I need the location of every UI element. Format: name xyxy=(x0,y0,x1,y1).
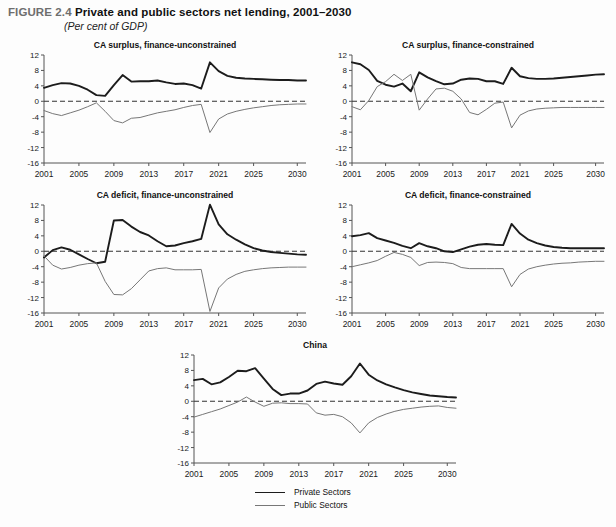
svg-text:2025: 2025 xyxy=(244,319,263,329)
svg-text:0: 0 xyxy=(185,397,190,406)
svg-text:2013: 2013 xyxy=(139,319,158,329)
svg-text:12: 12 xyxy=(338,201,347,210)
svg-text:-16: -16 xyxy=(335,309,347,318)
svg-text:-8: -8 xyxy=(340,128,348,137)
chart-panel-china: China 12840-4-8-12-162001200520092013201… xyxy=(168,340,462,485)
legend-label-private: Private Sectors xyxy=(294,488,351,496)
page-title: Private and public sectors net lending, … xyxy=(75,6,352,18)
svg-text:2021: 2021 xyxy=(511,169,530,179)
legend-swatch-public-icon xyxy=(255,505,285,506)
svg-text:2017: 2017 xyxy=(174,319,193,329)
plot-area: 12840-4-8-12-162001200520092013201720212… xyxy=(326,51,610,185)
svg-text:12: 12 xyxy=(30,51,39,60)
chart-panel-ca-deficit-unconstrained: CA deficit, finance-unconstrained 12840-… xyxy=(18,190,312,335)
svg-text:2030: 2030 xyxy=(438,469,457,479)
chart-panel-ca-deficit-constrained: CA deficit, finance-constrained 12840-4-… xyxy=(326,190,610,335)
svg-text:2009: 2009 xyxy=(410,319,429,329)
svg-text:2025: 2025 xyxy=(244,169,263,179)
figure-subtitle: (Per cent of GDP) xyxy=(64,20,608,32)
svg-text:2021: 2021 xyxy=(359,469,378,479)
svg-text:2001: 2001 xyxy=(35,319,54,329)
svg-text:2030: 2030 xyxy=(288,319,307,329)
svg-text:2005: 2005 xyxy=(376,319,395,329)
series-line-private-sectors xyxy=(194,363,456,397)
svg-text:12: 12 xyxy=(30,201,39,210)
svg-text:2017: 2017 xyxy=(477,169,496,179)
svg-text:-12: -12 xyxy=(335,144,347,153)
svg-text:2009: 2009 xyxy=(105,169,124,179)
svg-text:-8: -8 xyxy=(32,128,40,137)
plot-area: 12840-4-8-12-162001200520092013201720212… xyxy=(326,201,610,335)
svg-text:2017: 2017 xyxy=(324,469,343,479)
panel-title: CA deficit, finance-unconstrained xyxy=(18,190,312,200)
svg-text:2009: 2009 xyxy=(255,469,274,479)
panel-title: CA surplus, finance-constrained xyxy=(326,40,610,50)
chart-panel-ca-surplus-unconstrained: CA surplus, finance-unconstrained 12840-… xyxy=(18,40,312,185)
series-line-public-sectors xyxy=(352,252,604,286)
svg-text:2013: 2013 xyxy=(139,169,158,179)
svg-text:2017: 2017 xyxy=(174,169,193,179)
svg-text:2021: 2021 xyxy=(209,169,228,179)
svg-text:8: 8 xyxy=(185,366,190,375)
series-line-private-sectors xyxy=(44,62,306,96)
svg-text:-12: -12 xyxy=(27,144,39,153)
svg-text:2013: 2013 xyxy=(289,469,308,479)
plot-area: 12840-4-8-12-162001200520092013201720212… xyxy=(18,51,312,185)
svg-text:2021: 2021 xyxy=(511,319,530,329)
legend-item-private: Private Sectors xyxy=(255,486,351,499)
plot-svg: 12840-4-8-12-162001200520092013201720212… xyxy=(18,51,312,185)
plot-svg: 12840-4-8-12-162001200520092013201720212… xyxy=(326,51,610,185)
svg-text:2005: 2005 xyxy=(376,169,395,179)
plot-area: 12840-4-8-12-162001200520092013201720212… xyxy=(168,351,462,485)
svg-text:2021: 2021 xyxy=(209,319,228,329)
svg-text:8: 8 xyxy=(343,216,348,225)
svg-text:-8: -8 xyxy=(340,278,348,287)
legend-item-public: Public Sectors xyxy=(255,499,351,512)
series-line-public-sectors xyxy=(44,103,306,133)
plot-svg: 12840-4-8-12-162001200520092013201720212… xyxy=(326,201,610,335)
svg-text:2013: 2013 xyxy=(443,319,462,329)
figure-number: FIGURE 2.4 xyxy=(8,6,72,18)
svg-text:0: 0 xyxy=(343,97,348,106)
series-line-public-sectors xyxy=(44,256,306,312)
svg-text:2001: 2001 xyxy=(185,469,204,479)
chart-legend: Private Sectors Public Sectors xyxy=(255,486,351,512)
svg-text:0: 0 xyxy=(35,97,40,106)
svg-text:-4: -4 xyxy=(32,113,40,122)
svg-text:4: 4 xyxy=(35,82,40,91)
svg-text:2025: 2025 xyxy=(544,319,563,329)
svg-text:4: 4 xyxy=(343,232,348,241)
svg-text:-16: -16 xyxy=(27,309,39,318)
plot-area: 12840-4-8-12-162001200520092013201720212… xyxy=(18,201,312,335)
svg-text:0: 0 xyxy=(343,247,348,256)
svg-text:-8: -8 xyxy=(32,278,40,287)
figure-title-line: FIGURE 2.4 Private and public sectors ne… xyxy=(8,6,608,18)
svg-text:4: 4 xyxy=(35,232,40,241)
svg-text:2005: 2005 xyxy=(220,469,239,479)
legend-swatch-private-icon xyxy=(255,492,285,493)
svg-text:-16: -16 xyxy=(177,459,189,468)
svg-text:2013: 2013 xyxy=(443,169,462,179)
svg-text:2025: 2025 xyxy=(544,169,563,179)
series-line-private-sectors xyxy=(352,224,604,252)
svg-text:-16: -16 xyxy=(27,159,39,168)
series-line-private-sectors xyxy=(352,62,604,91)
svg-text:2005: 2005 xyxy=(70,319,89,329)
svg-text:8: 8 xyxy=(343,66,348,75)
svg-text:2001: 2001 xyxy=(343,319,362,329)
panel-title: CA deficit, finance-constrained xyxy=(326,190,610,200)
figure-header: FIGURE 2.4 Private and public sectors ne… xyxy=(8,6,608,32)
svg-text:2017: 2017 xyxy=(477,319,496,329)
plot-svg: 12840-4-8-12-162001200520092013201720212… xyxy=(168,351,462,485)
svg-text:0: 0 xyxy=(35,247,40,256)
svg-text:-4: -4 xyxy=(32,263,40,272)
svg-text:2030: 2030 xyxy=(586,319,605,329)
svg-text:2030: 2030 xyxy=(586,169,605,179)
svg-text:4: 4 xyxy=(343,82,348,91)
svg-text:-4: -4 xyxy=(340,113,348,122)
series-line-public-sectors xyxy=(194,397,456,433)
series-line-private-sectors xyxy=(44,205,306,264)
svg-text:-12: -12 xyxy=(335,294,347,303)
svg-text:8: 8 xyxy=(35,216,40,225)
legend-label-public: Public Sectors xyxy=(294,501,348,509)
